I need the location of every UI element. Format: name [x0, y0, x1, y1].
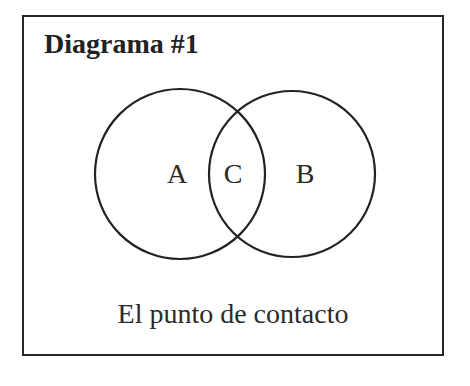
set-b-label: B — [296, 158, 315, 189]
diagram-frame: Diagrama #1 A C B El punto de contacto — [22, 15, 444, 356]
diagram-caption: El punto de contacto — [24, 298, 442, 330]
intersection-c-label: C — [224, 158, 243, 189]
set-a-label: A — [167, 158, 188, 189]
